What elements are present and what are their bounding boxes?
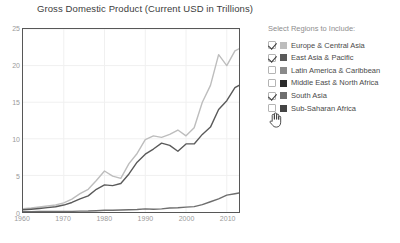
- page-title: Gross Domestic Product (Current USD in T…: [30, 3, 260, 14]
- series-line: [23, 49, 239, 209]
- x-axis-tick-label: 1970: [55, 215, 71, 222]
- series-line: [23, 85, 239, 209]
- x-axis-tick-label: 1980: [96, 215, 112, 222]
- legend-item-0[interactable]: Europe & Central Asia: [268, 39, 398, 52]
- series-line: [23, 193, 239, 212]
- legend-item-label: Middle East & North Africa: [291, 79, 379, 87]
- checkbox-unchecked-icon[interactable]: [268, 79, 276, 87]
- legend-color-swatch: [280, 92, 287, 99]
- y-axis-tick-label: 5: [0, 173, 20, 180]
- y-axis-tick-label: 20: [0, 62, 20, 69]
- plot-area: [22, 28, 240, 213]
- legend-color-swatch: [280, 67, 287, 74]
- legend-item-label: South Asia: [291, 92, 327, 100]
- y-axis-tick-label: 25: [0, 25, 20, 32]
- checkbox-checked-icon[interactable]: [268, 92, 276, 100]
- chart-lines-svg: [23, 29, 239, 212]
- chart-plot-container: 0510152025 196019701980199020002010: [0, 18, 262, 224]
- legend-item-2[interactable]: Latin America & Caribbean: [268, 64, 398, 77]
- x-axis-tick-label: 1990: [138, 215, 154, 222]
- legend-item-5[interactable]: Sub-Saharan Africa: [268, 102, 398, 115]
- legend-color-swatch: [280, 42, 287, 49]
- legend-item-4[interactable]: South Asia: [268, 89, 398, 102]
- legend-item-label: Sub-Saharan Africa: [291, 105, 356, 113]
- legend-items: Europe & Central AsiaEast Asia & Pacific…: [268, 39, 398, 115]
- legend-item-3[interactable]: Middle East & North Africa: [268, 77, 398, 90]
- checkbox-unchecked-icon[interactable]: [268, 104, 276, 112]
- legend-color-swatch: [280, 105, 287, 112]
- legend-panel: Select Regions to Include: Europe & Cent…: [268, 24, 398, 115]
- checkbox-unchecked-icon[interactable]: [268, 66, 276, 74]
- legend-item-label: Latin America & Caribbean: [291, 67, 380, 75]
- legend-item-label: East Asia & Pacific: [291, 54, 354, 62]
- x-axis-tick-label: 2000: [179, 215, 195, 222]
- legend-item-1[interactable]: East Asia & Pacific: [268, 52, 398, 65]
- y-axis: 0510152025: [0, 28, 20, 213]
- x-axis-tick-label: 1960: [14, 215, 30, 222]
- x-axis: 196019701980199020002010: [22, 215, 240, 227]
- legend-color-swatch: [280, 54, 287, 61]
- y-axis-tick-label: 15: [0, 99, 20, 106]
- checkbox-checked-icon[interactable]: [268, 54, 276, 62]
- legend-title: Select Regions to Include:: [268, 24, 398, 33]
- checkbox-checked-icon[interactable]: [268, 41, 276, 49]
- chart-page: Gross Domestic Product (Current USD in T…: [0, 0, 400, 243]
- legend-color-swatch: [280, 80, 287, 87]
- legend-item-label: Europe & Central Asia: [291, 42, 365, 50]
- x-axis-tick-label: 2010: [220, 215, 236, 222]
- y-axis-tick-label: 10: [0, 136, 20, 143]
